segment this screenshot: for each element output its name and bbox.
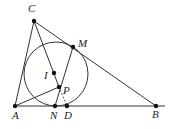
geometry-diagram: C M I P A N D B <box>0 0 172 129</box>
label-n: N <box>49 109 58 121</box>
point-i <box>52 71 56 75</box>
point-p <box>57 85 61 89</box>
segment-ca <box>15 21 34 106</box>
label-i: I <box>43 69 49 81</box>
point-m <box>71 45 75 49</box>
label-a: A <box>11 109 19 121</box>
label-p: P <box>62 84 70 96</box>
label-b: B <box>152 108 159 120</box>
label-c: C <box>28 2 36 14</box>
point-d <box>65 104 69 108</box>
point-a <box>13 104 17 108</box>
segment-mn <box>55 47 73 106</box>
point-n <box>53 104 57 108</box>
segment-ap <box>15 87 59 106</box>
label-m: M <box>77 37 88 49</box>
segment-cb <box>34 21 156 106</box>
point-c <box>32 19 36 23</box>
label-d: D <box>63 109 72 121</box>
